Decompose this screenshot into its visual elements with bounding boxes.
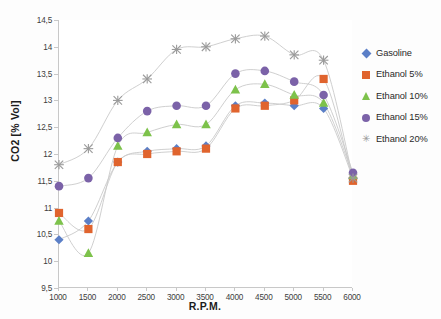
data-point [142, 74, 152, 83]
data-point [319, 91, 328, 100]
data-point [172, 120, 182, 129]
data-point [114, 134, 123, 143]
data-point [231, 69, 240, 78]
data-point [201, 120, 211, 129]
diamond-marker-icon [360, 47, 372, 59]
data-point [84, 144, 94, 153]
marker-glyph [362, 71, 370, 79]
y-tick-label: 14,5 [37, 16, 52, 25]
data-point [202, 145, 210, 153]
legend-label: Ethanol 5% [376, 69, 423, 79]
y-tick-label: 10 [43, 257, 52, 266]
chart-legend: GasolineEthanol 5%Ethanol 10%Ethanol 15%… [360, 42, 440, 150]
data-point [289, 50, 299, 59]
legend-item-ethanol-10[interactable]: Ethanol 10% [360, 85, 440, 107]
x-tickmark [117, 288, 118, 291]
x-marker-icon: ✳ [360, 133, 372, 145]
data-point [55, 182, 64, 191]
x-tickmark [205, 288, 206, 291]
legend-label: Ethanol 15% [376, 112, 428, 122]
y-tick-label: 14 [43, 42, 52, 51]
data-point [84, 174, 93, 183]
series-ethanol-5 [55, 75, 357, 233]
x-tickmark [234, 288, 235, 291]
marker-glyph [362, 92, 370, 100]
legend-item-ethanol-5[interactable]: Ethanol 5% [360, 64, 440, 86]
x-tickmark [264, 288, 265, 291]
x-tickmark [323, 288, 324, 291]
data-point [84, 248, 94, 257]
y-tick-label: 12 [43, 150, 52, 159]
triangle-marker-icon [360, 90, 372, 102]
circle-marker-icon [360, 111, 372, 123]
data-point [231, 104, 239, 112]
data-point [143, 107, 152, 116]
x-tickmark [58, 288, 59, 291]
data-point [113, 96, 123, 105]
x-tickmark [352, 288, 353, 291]
trend-line-ethanol-5 [59, 76, 353, 231]
y-tick-label: 11 [44, 203, 52, 212]
x-tickmark [176, 288, 177, 291]
y-tick-label: 9,5 [41, 284, 52, 293]
y-tick-label: 12,5 [37, 123, 52, 132]
legend-label: Ethanol 20% [376, 134, 428, 144]
legend-label: Gasoline [376, 48, 412, 58]
data-point [320, 75, 328, 83]
data-point [319, 56, 329, 65]
data-point [261, 67, 270, 76]
data-point [290, 77, 299, 86]
legend-item-gasoline[interactable]: Gasoline [360, 42, 440, 64]
x-tickmark [146, 288, 147, 291]
x-tickmark [87, 288, 88, 291]
y-tick-label: 13 [43, 96, 52, 105]
data-point [202, 101, 211, 110]
data-point [55, 209, 63, 217]
y-axis-ticks: 9,51010,51111,51212,51313,51414,5 [0, 20, 56, 288]
y-tick-label: 10,5 [37, 230, 52, 239]
x-axis-title: R.P.M. [58, 300, 352, 312]
plot-area [58, 20, 352, 288]
data-point [261, 102, 269, 110]
data-point [172, 45, 182, 54]
x-tickmark [293, 288, 294, 291]
y-tick-label: 13,5 [37, 69, 52, 78]
plot-canvas [59, 20, 353, 288]
square-marker-icon [360, 68, 372, 80]
marker-glyph [362, 114, 370, 122]
data-point [289, 90, 299, 99]
co2-rpm-chart: CO2 [% Vol] 9,51010,51111,51212,51313,51… [0, 0, 441, 319]
data-point [231, 34, 241, 43]
data-point [201, 42, 211, 51]
legend-item-ethanol-15[interactable]: Ethanol 15% [360, 107, 440, 129]
data-point [54, 160, 64, 169]
data-point [84, 225, 92, 233]
data-point [143, 150, 151, 158]
data-point [114, 158, 122, 166]
data-point [348, 174, 358, 183]
legend-item-ethanol-20[interactable]: ✳Ethanol 20% [360, 128, 440, 150]
data-point [260, 31, 270, 40]
marker-glyph: ✳ [361, 134, 371, 144]
marker-glyph [361, 48, 371, 58]
y-tick-label: 11,5 [37, 176, 52, 185]
data-point [142, 128, 152, 137]
data-point [172, 101, 181, 110]
legend-label: Ethanol 10% [376, 91, 428, 101]
data-point [231, 85, 241, 94]
data-point [173, 147, 181, 155]
